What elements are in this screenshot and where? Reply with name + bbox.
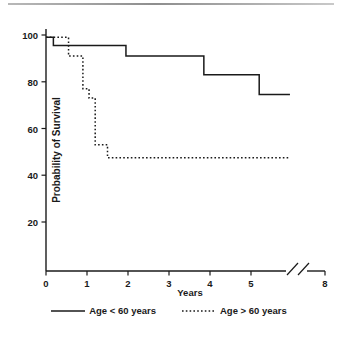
y-tick-label-20: 20: [12, 217, 38, 228]
x-tick-label-3: 3: [166, 278, 171, 289]
axis-break-slash-1: [287, 263, 298, 275]
y-tick-label-80: 80: [12, 76, 38, 87]
legend-item-age-under-60: Age < 60 years: [51, 305, 156, 316]
legend-label-age-over-60: Age > 60 years: [220, 305, 287, 316]
legend-item-age-over-60: Age > 60 years: [182, 305, 287, 316]
y-tick-label-40: 40: [12, 170, 38, 181]
y-axis-label: Probability of Survival: [51, 97, 62, 203]
chart-legend: Age < 60 years Age > 60 years: [0, 305, 338, 316]
x-axis-label: Years: [177, 287, 202, 298]
x-tick-label-5: 5: [248, 278, 253, 289]
legend-swatch-solid: [51, 307, 85, 315]
y-tick-label-100: 100: [12, 30, 38, 41]
y-tick-label-60: 60: [12, 123, 38, 134]
x-tick-label-8: 8: [322, 278, 327, 289]
x-tick-label-4: 4: [207, 278, 212, 289]
x-tick-label-0: 0: [43, 278, 48, 289]
survival-chart-figure: 100 80 60 40 20 0 1 2 3 4 5 8 Probabilit…: [0, 0, 338, 338]
x-tick-label-1: 1: [84, 278, 89, 289]
legend-swatch-dotted: [182, 307, 216, 315]
legend-label-age-under-60: Age < 60 years: [89, 305, 156, 316]
x-tick-label-2: 2: [125, 278, 130, 289]
axis-break-slash-2: [298, 263, 309, 275]
